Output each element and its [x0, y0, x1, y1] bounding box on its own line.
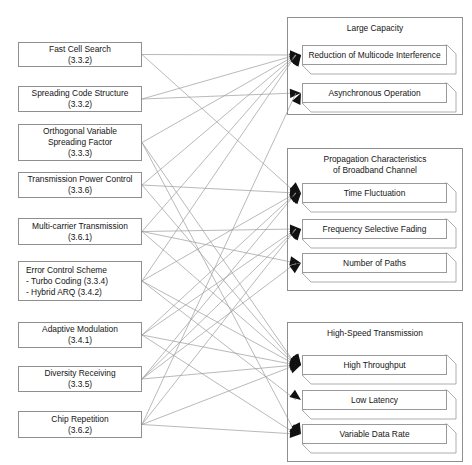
technology-box-error-control[interactable]: Error Control Scheme- Turbo Coding (3.3.…	[18, 261, 142, 301]
requirement-item-frequency-selective-fading[interactable]: Frequency Selective Fading	[302, 219, 447, 239]
technology-box-diversity-receiving[interactable]: Diversity Receiving(3.3.5)	[18, 366, 142, 392]
technology-box-label: - Turbo Coding (3.3.4)	[26, 276, 108, 287]
requirement-item-high-throughput[interactable]: High Throughput	[302, 355, 447, 375]
requirement-item-low-latency[interactable]: Low Latency	[302, 390, 447, 410]
requirement-item-label: Asynchronous Operation	[328, 88, 420, 98]
technology-box-label: Diversity Receiving	[44, 368, 115, 379]
technology-box-label: Adaptive Modulation	[42, 324, 118, 335]
requirement-panel-title: of Broadband Channel	[287, 165, 463, 176]
technology-box-fast-cell-search[interactable]: Fast Cell Search(3.3.2)	[18, 42, 142, 67]
technology-box-label: Transmission Power Control	[28, 174, 133, 185]
technology-box-chip-repetition[interactable]: Chip Repetition(3.6.2)	[18, 411, 142, 438]
requirement-item-label: Low Latency	[351, 395, 398, 405]
technology-box-label: (3.6.2)	[68, 425, 92, 436]
requirement-item-label: Variable Data Rate	[339, 429, 409, 439]
requirement-item-label: Time Fluctuation	[344, 188, 406, 198]
requirement-item-asynchronous-operation[interactable]: Asynchronous Operation	[302, 83, 447, 103]
requirement-item-number-of-paths[interactable]: Number of Paths	[302, 253, 447, 273]
requirement-item-time-fluctuation[interactable]: Time Fluctuation	[302, 183, 447, 203]
technology-box-label: (3.3.5)	[68, 379, 92, 390]
technology-box-label: (3.3.3)	[68, 148, 92, 159]
requirement-item-label: Reduction of Multicode Interference	[308, 50, 440, 60]
technology-box-label: - Hybrid ARQ (3.4.2)	[26, 287, 102, 298]
requirement-panel-title: High-Speed Transmission	[287, 328, 463, 339]
technology-box-label: (3.3.2)	[68, 99, 92, 110]
requirement-panel-title: Large Capacity	[287, 23, 463, 34]
requirement-item-reduction-multicode-interference[interactable]: Reduction of Multicode Interference	[302, 45, 447, 65]
technology-box-label: (3.3.6)	[68, 185, 92, 196]
technology-box-label: (3.3.2)	[68, 55, 92, 66]
technology-box-spreading-code[interactable]: Spreading Code Structure(3.3.2)	[18, 86, 142, 112]
technology-box-label: Multi-carrier Transmission	[32, 221, 128, 232]
technology-box-label: (3.6.1)	[68, 232, 92, 243]
technology-box-label: Error Control Scheme	[26, 265, 107, 276]
requirement-item-label: High Throughput	[343, 360, 405, 370]
technology-box-label: Chip Repetition	[51, 414, 108, 425]
requirement-panel-title: Propagation Characteristics	[287, 154, 463, 165]
technology-box-multi-carrier[interactable]: Multi-carrier Transmission(3.6.1)	[18, 218, 142, 245]
technology-box-adaptive-modulation[interactable]: Adaptive Modulation(3.4.1)	[18, 322, 142, 348]
technology-box-label: Orthogonal Variable	[43, 126, 117, 137]
requirement-item-variable-data-rate[interactable]: Variable Data Rate	[302, 424, 447, 444]
requirement-item-label: Number of Paths	[343, 258, 406, 268]
technology-box-label: Fast Cell Search	[49, 44, 111, 55]
technology-box-power-control[interactable]: Transmission Power Control(3.3.6)	[18, 172, 142, 198]
technology-box-label: (3.4.1)	[68, 335, 92, 346]
technology-box-label: Spreading Factor	[48, 137, 112, 148]
technology-box-ovsf[interactable]: Orthogonal VariableSpreading Factor(3.3.…	[18, 124, 142, 161]
diagram-canvas: Fast Cell Search(3.3.2)Spreading Code St…	[0, 0, 472, 465]
requirement-item-label: Frequency Selective Fading	[323, 224, 427, 234]
technology-box-label: Spreading Code Structure	[32, 88, 129, 99]
